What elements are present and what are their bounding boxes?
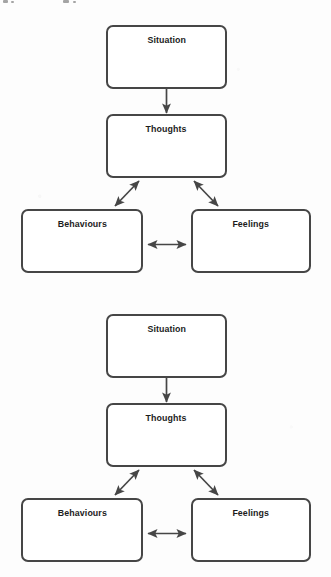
node-situation-label: Situation (147, 323, 186, 334)
node-feelings-label: Feelings (233, 507, 270, 518)
diagram-page: Situation Thoughts Behaviours Feelings (0, 0, 331, 577)
node-behaviours[interactable]: Behaviours (21, 209, 143, 273)
node-feelings[interactable]: Feelings (191, 498, 311, 562)
node-thoughts[interactable]: Thoughts (106, 114, 227, 178)
node-behaviours[interactable]: Behaviours (21, 498, 143, 562)
arrow-thoughts-feelings (194, 181, 218, 206)
node-thoughts-label: Thoughts (146, 412, 187, 423)
node-situation-label: Situation (147, 34, 186, 45)
cbt-cycle-diagram-top: Situation Thoughts Behaviours Feelings (0, 0, 331, 289)
node-behaviours-label: Behaviours (57, 218, 106, 229)
node-situation[interactable]: Situation (106, 314, 227, 378)
arrow-thoughts-behaviours (115, 181, 139, 206)
arrow-thoughts-feelings (194, 470, 218, 495)
cbt-cycle-diagram-bottom: Situation Thoughts Behaviours Feelings (0, 289, 331, 577)
arrow-thoughts-behaviours (115, 470, 139, 495)
node-behaviours-label: Behaviours (57, 507, 106, 518)
node-situation[interactable]: Situation (106, 25, 227, 89)
node-thoughts-label: Thoughts (146, 123, 187, 134)
node-thoughts[interactable]: Thoughts (106, 403, 227, 467)
node-feelings[interactable]: Feelings (191, 209, 311, 273)
node-feelings-label: Feelings (233, 218, 270, 229)
